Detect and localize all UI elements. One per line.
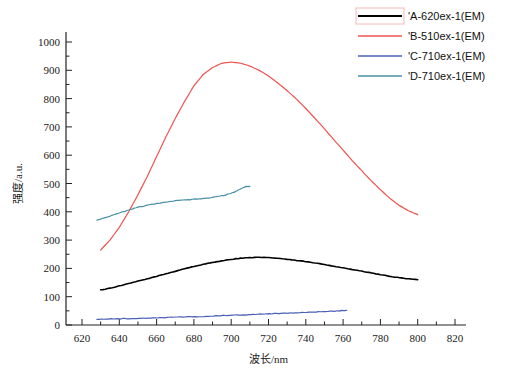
y-tick-labels: 01002003004005006007008009001000 xyxy=(38,36,61,331)
y-tick-label: 1000 xyxy=(38,36,61,48)
series-line-2 xyxy=(101,62,418,250)
x-tick-label: 720 xyxy=(260,332,277,344)
legend-label-2: 'B-510ex-1(EM) xyxy=(408,30,485,42)
x-tick-label: 800 xyxy=(409,332,426,344)
legend-label-3: 'C-710ex-1(EM) xyxy=(408,50,485,62)
y-tick-label: 300 xyxy=(44,234,61,246)
y-tick-label: 0 xyxy=(55,319,61,331)
x-tick-label: 780 xyxy=(372,332,389,344)
y-tick-label: 800 xyxy=(44,93,61,105)
x-tick-label: 640 xyxy=(111,332,128,344)
series-line-1 xyxy=(101,257,418,289)
y-tick-label: 400 xyxy=(44,206,61,218)
legend-label-4: 'D-710ex-1(EM) xyxy=(408,70,485,82)
y-tick-label: 700 xyxy=(44,121,61,133)
series-line-3 xyxy=(97,310,347,319)
x-tick-label: 760 xyxy=(335,332,352,344)
y-tick-label: 600 xyxy=(44,149,61,161)
x-tick-label: 680 xyxy=(186,332,203,344)
x-tick-label: 740 xyxy=(298,332,315,344)
y-tick-label: 100 xyxy=(44,291,61,303)
y-axis-title: 强度/a.u. xyxy=(11,163,24,204)
y-axis-ticks xyxy=(66,42,72,325)
x-tick-label: 660 xyxy=(148,332,165,344)
x-tick-labels: 620640660680700720740760780800820 xyxy=(74,332,464,344)
spectral-line-chart: 6206406606807007207407607808008200100200… xyxy=(0,0,508,378)
legend: 'A-620ex-1(EM)'B-510ex-1(EM)'C-710ex-1(E… xyxy=(356,8,485,82)
x-tick-label: 620 xyxy=(74,332,91,344)
chart-figure: 6206406606807007207407607808008200100200… xyxy=(0,0,508,378)
y-tick-label: 200 xyxy=(44,262,61,274)
y-tick-label: 900 xyxy=(44,64,61,76)
x-tick-label: 700 xyxy=(223,332,240,344)
y-tick-label: 500 xyxy=(44,178,61,190)
x-axis-title: 波长/nm xyxy=(249,353,289,365)
x-tick-label: 820 xyxy=(447,332,464,344)
x-axis-ticks xyxy=(82,319,455,325)
series-group xyxy=(97,62,418,319)
legend-label-1: 'A-620ex-1(EM) xyxy=(408,10,485,22)
series-line-4 xyxy=(97,186,250,220)
